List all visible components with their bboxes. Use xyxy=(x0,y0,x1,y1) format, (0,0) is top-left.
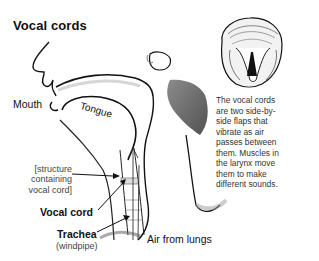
trachea-pointer xyxy=(97,218,126,232)
structure-pointer xyxy=(72,174,113,176)
label-vocal-cord: Vocal cord xyxy=(40,206,93,218)
airflow-arrows xyxy=(128,148,139,240)
label-structure: [structure containing vocal cord] xyxy=(24,164,72,195)
trachea xyxy=(120,148,144,235)
label-mouth: Mouth xyxy=(13,98,42,110)
label-air-from-lungs: Air from lungs xyxy=(147,233,212,245)
hair xyxy=(167,80,208,135)
vocal-cords-description: The vocal cords are two side-by-side fla… xyxy=(216,95,284,190)
throat-wall xyxy=(138,96,153,240)
label-windpipe: (windpipe) xyxy=(56,241,98,251)
diagram-title: Vocal cords xyxy=(13,18,87,33)
vocal-cord-pointer xyxy=(98,183,123,210)
neck-back xyxy=(186,135,220,211)
label-structure-line-3: vocal cord] xyxy=(24,185,72,195)
ear xyxy=(149,52,170,70)
label-trachea: Trachea xyxy=(57,228,97,240)
label-structure-line-1: [structure xyxy=(24,164,72,174)
label-structure-line-2: containing xyxy=(24,174,72,184)
vocal-cords-top-view xyxy=(222,18,282,87)
